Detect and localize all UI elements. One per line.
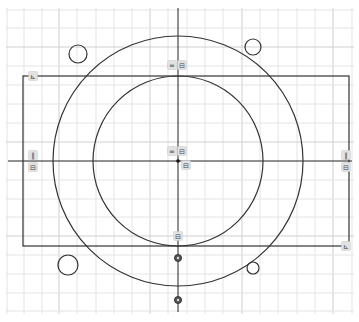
parallel-constraint-left-icon: ∥ (31, 152, 35, 160)
equal-constraint-top-icon: = (169, 62, 175, 70)
small-circle-bottom-left[interactable] (58, 255, 78, 275)
parallel-constraint-right-icon: ∥ (344, 152, 348, 160)
small-circle-top-left[interactable] (69, 45, 87, 63)
fix-constraint-right-icon: ⊟ (343, 164, 349, 172)
origin-point[interactable] (176, 159, 180, 163)
equal-constraint-center-icon: = (169, 148, 175, 156)
fix-constraint-bottom-icon: ⊟ (175, 233, 181, 241)
fix-constraint-top-icon: ⊟ (179, 62, 185, 70)
sketch-drawing[interactable]: =⊟=⊟⊟∥⊟∥⊟⊾⊾⊟ (0, 0, 359, 322)
fix-constraint-center-icon: ⊟ (179, 148, 185, 156)
perpendicular-constraint-top-left-icon: ⊾ (30, 73, 36, 81)
construction-point-1-center (177, 257, 179, 259)
perpendicular-constraint-bottom-right-icon: ⊾ (343, 243, 349, 251)
construction-point-2-center (177, 299, 179, 301)
sketch-canvas[interactable]: =⊟=⊟⊟∥⊟∥⊟⊾⊾⊟ (0, 0, 359, 322)
fix-constraint-center-2-icon: ⊟ (183, 162, 189, 170)
fix-constraint-left-icon: ⊟ (30, 164, 36, 172)
small-circle-bottom-right[interactable] (247, 262, 259, 274)
